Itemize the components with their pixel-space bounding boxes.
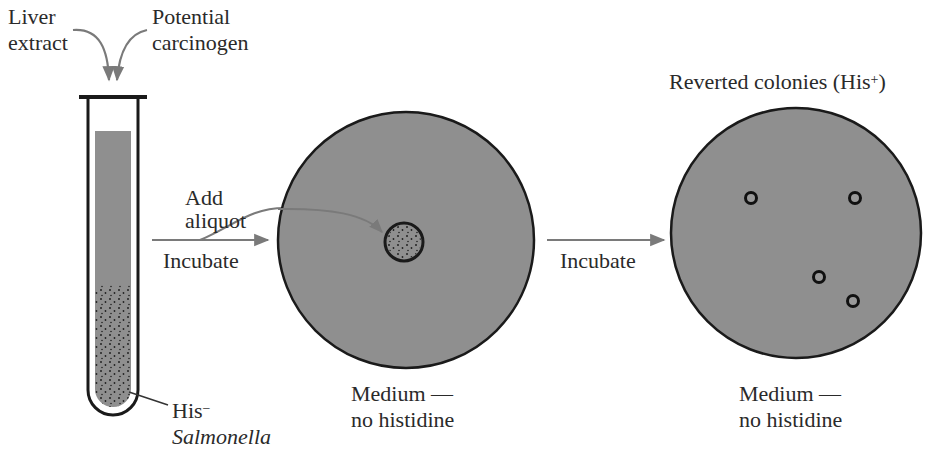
salmonella-suspension: [95, 285, 131, 407]
medium-label-2: Medium — no histidine: [739, 381, 842, 433]
incubate-label-1: Incubate: [163, 248, 239, 274]
add-aliquot-label: Add aliquot: [185, 185, 246, 234]
petri-plate-1: [278, 112, 534, 368]
medium-label-1: Medium — no histidine: [351, 381, 454, 433]
salmonella-label: Salmonella: [172, 424, 271, 450]
reverted-colonies-label: Reverted colonies (His+): [669, 69, 886, 95]
liver-extract-arrow: [73, 30, 109, 80]
carcinogen-arrow: [117, 30, 147, 80]
test-tube-icon: [79, 97, 147, 415]
petri-plate-2: [671, 108, 921, 358]
incubate-label-2: Incubate: [560, 248, 636, 274]
his-minus-label: His−: [172, 398, 210, 424]
carcinogen-label: Potential carcinogen: [152, 4, 249, 56]
liver-extract-label: Liver extract: [8, 4, 68, 56]
